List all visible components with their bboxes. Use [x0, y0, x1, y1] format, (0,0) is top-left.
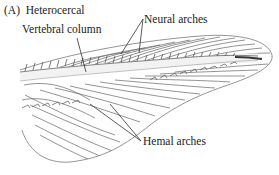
heterocercal-tail-illustration — [0, 0, 279, 175]
leader-hemal-arches-1 — [90, 104, 141, 141]
leader-hemal-arches-2 — [110, 104, 141, 141]
leader-lines — [77, 19, 143, 141]
